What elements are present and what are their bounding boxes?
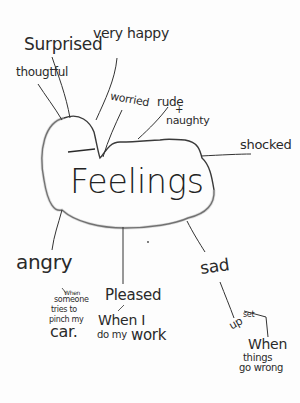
branch-label-angry: angry [16, 252, 72, 272]
branch-label-pleased: Pleased [105, 288, 161, 303]
branch-line-thoughtful [38, 84, 62, 120]
angry-note-line3: tries to [51, 305, 77, 314]
branch-label-shocked: shocked [240, 138, 291, 151]
branch-line-very-happy [96, 58, 117, 120]
sad-note-line3: go wrong [239, 363, 283, 373]
branch-label-very-happy: very happy [93, 26, 169, 40]
branch-line-sad [187, 221, 205, 252]
branch-label-naughty: naughty [166, 115, 209, 126]
pleased-note-line1: When I [98, 313, 145, 327]
branch-line-rude-naughty [138, 107, 168, 139]
angry-note-line2: someone [54, 295, 89, 304]
sad-sub-set: set [243, 311, 254, 319]
branch-label-sad: sad [199, 256, 230, 277]
branch-label-surprised: Surprised [24, 36, 102, 53]
branch-line-angry [52, 210, 62, 250]
branch-line-shocked [201, 154, 251, 156]
paper-canvas: Feelings Surprised very happy thougtful … [0, 0, 300, 403]
central-node-label: Feelings [70, 162, 204, 201]
pleased-note-line2: do my [97, 330, 127, 340]
angry-note-car: car. [50, 324, 78, 340]
branch-line-sad-lower [220, 282, 234, 318]
pleased-note-line3: work [131, 328, 166, 343]
branch-label-thoughtful: thougtful [16, 66, 68, 78]
sad-note-line1: When [248, 337, 287, 351]
branch-line-pleased-note [118, 305, 124, 311]
